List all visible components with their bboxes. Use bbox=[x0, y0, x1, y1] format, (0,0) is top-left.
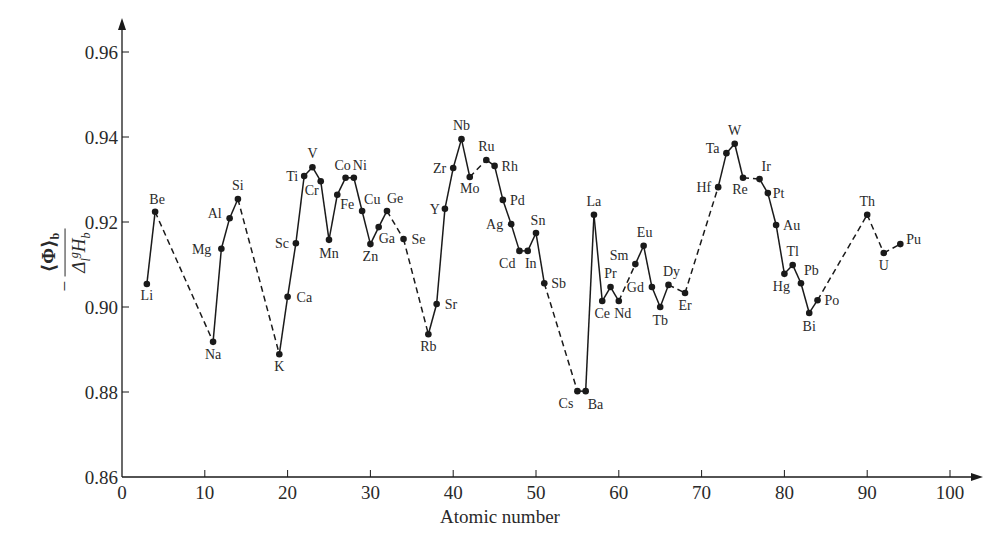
point-label-sm: Sm bbox=[610, 248, 629, 263]
solid-segment bbox=[288, 243, 296, 297]
point-label-ni: Ni bbox=[353, 158, 367, 173]
data-point-hg bbox=[781, 271, 788, 278]
y-tick-label: 0.94 bbox=[85, 127, 119, 148]
data-point-ta bbox=[723, 150, 730, 157]
x-axis-title: Atomic number bbox=[440, 506, 560, 527]
point-label-ag: Ag bbox=[486, 217, 503, 232]
point-label-th: Th bbox=[859, 194, 875, 209]
data-point-mg bbox=[218, 245, 225, 252]
point-label-ca: Ca bbox=[297, 290, 313, 305]
x-tick-label: 50 bbox=[527, 482, 546, 503]
data-point-ni bbox=[351, 175, 358, 182]
point-label-in: In bbox=[525, 256, 537, 271]
dashed-segment bbox=[544, 283, 577, 391]
data-series-line bbox=[147, 139, 900, 391]
data-point-ca bbox=[284, 294, 291, 301]
data-point-dy bbox=[665, 282, 672, 289]
point-label-pr: Pr bbox=[604, 266, 617, 281]
enthalpy-symbol: H bbox=[68, 239, 89, 253]
solid-segment bbox=[296, 176, 304, 243]
enthalpy-subscript: b bbox=[78, 233, 92, 239]
point-label-nd: Nd bbox=[614, 306, 631, 321]
x-tick-label: 20 bbox=[278, 482, 297, 503]
point-label-na: Na bbox=[205, 347, 222, 362]
point-label-hf: Hf bbox=[696, 180, 711, 195]
point-label-fe: Fe bbox=[340, 197, 354, 212]
y-axis-title-fraction: ⟨Φ⟩b ΔlgHb bbox=[37, 229, 94, 277]
solid-segment bbox=[428, 304, 436, 334]
data-point-tl bbox=[789, 262, 796, 269]
point-label-se: Se bbox=[412, 232, 426, 247]
data-point-hf bbox=[715, 184, 722, 191]
data-point-v bbox=[309, 164, 316, 171]
data-point-ce bbox=[599, 298, 606, 305]
solid-segment bbox=[221, 218, 229, 249]
point-label-ba: Ba bbox=[588, 397, 604, 412]
y-axis-arrow-icon bbox=[118, 18, 126, 30]
point-label-dy: Dy bbox=[663, 264, 680, 279]
numerator-symbol: ⟨Φ⟩ bbox=[38, 239, 59, 272]
solid-segment bbox=[644, 246, 652, 287]
solid-segment bbox=[735, 144, 743, 178]
point-label-ir: Ir bbox=[762, 159, 772, 174]
point-label-w: W bbox=[728, 123, 742, 138]
solid-segment bbox=[279, 297, 287, 354]
data-point-sr bbox=[433, 301, 440, 308]
data-point-ir bbox=[756, 176, 763, 183]
delta-subscript: l bbox=[78, 258, 92, 261]
data-point-al bbox=[226, 215, 233, 222]
point-label-ta: Ta bbox=[706, 141, 721, 156]
data-point-ru bbox=[483, 157, 490, 164]
point-label-au: Au bbox=[783, 218, 800, 233]
data-point-si bbox=[235, 196, 242, 203]
dashed-segment bbox=[685, 187, 718, 293]
point-label-ga: Ga bbox=[379, 231, 396, 246]
x-tick-label: 40 bbox=[444, 482, 463, 503]
y-axis-title-minus: − bbox=[54, 281, 76, 292]
solid-segment bbox=[321, 181, 329, 240]
data-point-tb bbox=[657, 304, 664, 311]
data-point-pr bbox=[607, 284, 614, 291]
point-label-nb: Nb bbox=[453, 118, 470, 133]
point-label-ce: Ce bbox=[594, 306, 610, 321]
dashed-segment bbox=[155, 212, 213, 342]
point-label-po: Po bbox=[825, 293, 840, 308]
data-point-sn bbox=[533, 230, 540, 237]
point-label-be: Be bbox=[149, 192, 165, 207]
data-point-ge bbox=[384, 208, 391, 215]
solid-segment bbox=[147, 212, 155, 284]
solid-segment bbox=[511, 224, 519, 251]
data-point-sc bbox=[293, 240, 300, 247]
point-label-er: Er bbox=[678, 298, 692, 313]
data-point-ag bbox=[508, 221, 515, 228]
dashed-segment bbox=[470, 160, 487, 177]
point-label-ge: Ge bbox=[387, 191, 403, 206]
solid-segment bbox=[362, 211, 370, 244]
y-tick-label: 0.86 bbox=[85, 467, 118, 488]
point-label-zn: Zn bbox=[363, 249, 379, 264]
data-point-er bbox=[682, 290, 689, 297]
point-label-mn: Mn bbox=[319, 246, 338, 261]
data-markers bbox=[144, 136, 904, 395]
point-label-hg: Hg bbox=[773, 279, 790, 294]
point-label-pu: Pu bbox=[906, 232, 921, 247]
y-axis-title-numerator: ⟨Φ⟩b bbox=[37, 229, 66, 277]
point-label-pt: Pt bbox=[773, 186, 785, 201]
solid-segment bbox=[594, 215, 602, 301]
chart-canvas: 01020304050607080901000.860.880.900.920.… bbox=[0, 0, 1003, 549]
data-point-u bbox=[880, 250, 887, 257]
point-label-ti: Ti bbox=[286, 169, 298, 184]
data-point-ba bbox=[582, 388, 589, 395]
data-point-pu bbox=[897, 241, 904, 248]
data-point-mn bbox=[326, 237, 333, 244]
point-label-al: Al bbox=[208, 206, 222, 221]
x-tick-label: 10 bbox=[195, 482, 214, 503]
data-point-w bbox=[731, 141, 738, 148]
point-label-cs: Cs bbox=[559, 396, 574, 411]
data-point-pb bbox=[798, 280, 805, 287]
dashed-segment bbox=[404, 239, 429, 334]
point-label-pd: Pd bbox=[510, 193, 525, 208]
numerator-subscript: b bbox=[48, 233, 62, 240]
y-axis-title: − ⟨Φ⟩b ΔlgHb bbox=[20, 205, 110, 315]
x-tick-label: 70 bbox=[692, 482, 711, 503]
